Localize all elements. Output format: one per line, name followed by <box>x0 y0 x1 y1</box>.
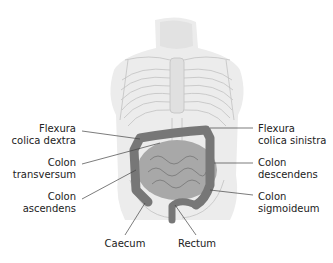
label-rectum: Rectum <box>172 238 222 250</box>
label-line: colica dextra <box>10 135 76 147</box>
label-flexura-colica-dextra: Flexura colica dextra <box>10 123 76 147</box>
label-line: Colon <box>258 191 320 203</box>
label-line: colica sinistra <box>258 135 326 147</box>
label-line: Colon <box>10 191 76 203</box>
label-line: sigmoideum <box>258 203 320 215</box>
label-line: Flexura <box>258 123 326 135</box>
label-line: transversum <box>10 169 76 181</box>
label-colon-transversum: Colon transversum <box>10 157 76 181</box>
label-line: Caecum <box>100 238 150 250</box>
label-colon-ascendens: Colon ascendens <box>10 191 76 215</box>
label-line: Colon <box>10 157 76 169</box>
label-caecum: Caecum <box>100 238 150 250</box>
label-flexura-colica-sinistra: Flexura colica sinistra <box>258 123 326 147</box>
label-line: Colon <box>258 157 318 169</box>
label-colon-descendens: Colon descendens <box>258 157 318 181</box>
label-colon-sigmoideum: Colon sigmoideum <box>258 191 320 215</box>
label-line: Flexura <box>10 123 76 135</box>
label-line: Rectum <box>172 238 222 250</box>
label-line: descendens <box>258 169 318 181</box>
label-line: ascendens <box>10 203 76 215</box>
